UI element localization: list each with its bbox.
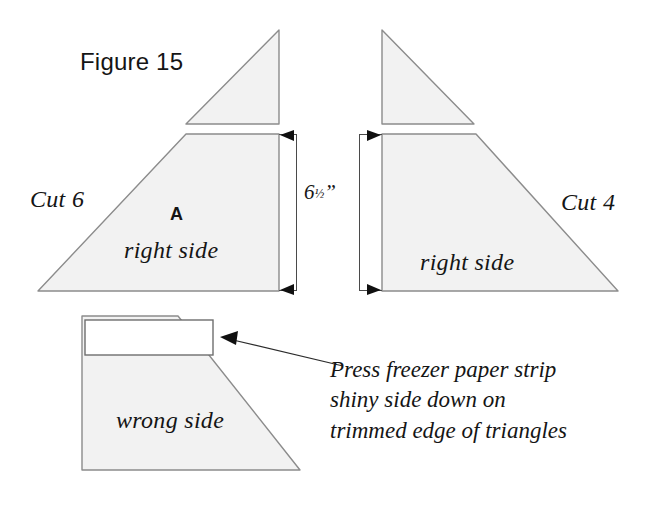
dimension-arrow-bottom-right: [367, 284, 381, 295]
dimension-value: 6: [304, 180, 315, 204]
dimension-arrow-top-left: [280, 130, 294, 141]
piece-letter-label: A: [170, 205, 183, 223]
dimension-arrow-top-right: [367, 130, 381, 141]
wrong-side-label: wrong side: [116, 408, 224, 432]
small-triangle-left: [186, 30, 279, 124]
trapezoid-left-right-side: [38, 134, 279, 291]
dimension-line-right: [359, 130, 382, 295]
dimension-fraction: ½: [315, 186, 325, 201]
figure-title: Figure 15: [80, 50, 183, 74]
cut-count-left-label: Cut 6: [30, 187, 84, 211]
cut-count-right-label: Cut 4: [561, 190, 615, 214]
callout-arrowhead: [220, 331, 238, 345]
dimension-unit: ”: [324, 180, 336, 204]
small-triangle-right: [382, 30, 474, 124]
freezer-paper-strip: [85, 320, 213, 355]
right-side-label-right: right side: [420, 250, 514, 274]
right-side-label-left: right side: [124, 238, 218, 262]
dimension-label: 6½”: [304, 182, 336, 203]
figure-canvas: Figure 15 Cut 6 Cut 4 A right side right…: [0, 0, 655, 506]
dimension-arrow-bottom-left: [280, 284, 294, 295]
callout-caption: Press freezer paper strip shiny side dow…: [330, 355, 650, 446]
dimension-line-left: [279, 130, 297, 295]
callout-leader: [220, 331, 343, 366]
